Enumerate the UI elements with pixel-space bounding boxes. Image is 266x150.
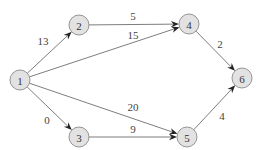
- node-1: 1: [10, 70, 30, 90]
- node-6: 6: [232, 68, 252, 88]
- edge-weight-label: 13: [38, 35, 50, 47]
- edge-5-6: [194, 90, 231, 130]
- node-2: 2: [69, 15, 89, 35]
- node-4: 4: [179, 14, 199, 34]
- graph-diagram: 13152005924 123456: [0, 0, 266, 150]
- edge-2-4: [89, 24, 173, 25]
- edge-weight-label: 15: [128, 29, 140, 41]
- edge-weight-label: 20: [128, 101, 140, 113]
- node-label: 4: [186, 19, 192, 31]
- node-label: 1: [17, 75, 23, 87]
- node-label: 5: [184, 132, 190, 144]
- edge-1-5: [29, 83, 171, 132]
- edge-weight-label: 9: [130, 123, 136, 135]
- node-label: 3: [76, 132, 82, 144]
- node-label: 6: [239, 73, 245, 85]
- edge-weight-label: 4: [219, 110, 225, 122]
- node-label: 2: [76, 20, 82, 32]
- node-5: 5: [177, 127, 197, 147]
- edge-1-4: [29, 29, 173, 77]
- edge-weight-label: 2: [217, 38, 223, 50]
- edge-weight-label: 0: [44, 114, 50, 126]
- node-3: 3: [69, 127, 89, 147]
- edge-weight-label: 5: [130, 10, 136, 22]
- edge-4-6: [196, 31, 231, 66]
